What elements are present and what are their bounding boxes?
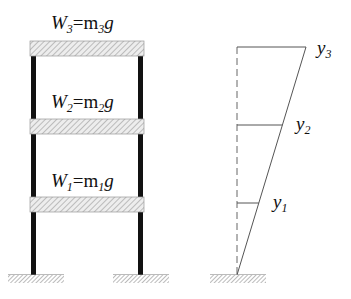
right-column (138, 56, 143, 275)
weight-label-floor-3: W3=m3g (51, 12, 114, 36)
ground-support-left (8, 275, 64, 283)
shear-frame: W3=m3g W2=m2g W1=m1g (8, 12, 169, 283)
deflected-shape: y3 y2 y1 (210, 37, 331, 283)
ground-support-right (113, 275, 169, 283)
weight-label-floor-1: W1=m1g (51, 170, 114, 194)
slab-floor-3 (30, 41, 144, 56)
deflection-line (237, 47, 306, 275)
label-y2: y2 (294, 113, 310, 137)
slab-floor-2 (30, 119, 144, 134)
structure-diagram: W3=m3g W2=m2g W1=m1g y3 y2 y1 (0, 0, 351, 299)
slab-floor-1 (30, 197, 144, 212)
label-y1: y1 (271, 191, 287, 215)
weight-label-floor-2: W2=m2g (51, 91, 114, 115)
label-y3: y3 (315, 37, 331, 61)
ground-support-deflection (210, 275, 266, 283)
left-column (31, 56, 36, 275)
